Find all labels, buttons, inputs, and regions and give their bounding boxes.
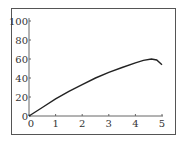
y-tick-label: 20: [15, 92, 28, 103]
x-tick-label: 2: [79, 118, 85, 129]
line-chart: 020406080100 012345: [0, 0, 181, 145]
x-tick-label: 5: [159, 118, 165, 129]
y-tick-label: 80: [15, 35, 28, 46]
y-tick-label: 100: [9, 16, 28, 27]
x-tick-label: 1: [52, 118, 58, 129]
y-tick-label: 60: [15, 54, 28, 65]
y-tick-label: 40: [15, 73, 28, 84]
x-tick-label: 4: [132, 118, 138, 129]
y-ticks: 020406080100: [9, 16, 31, 122]
axes: [29, 18, 163, 116]
x-tick-label: 0: [28, 118, 34, 129]
x-tick-label: 3: [106, 118, 112, 129]
data-line: [29, 59, 162, 116]
